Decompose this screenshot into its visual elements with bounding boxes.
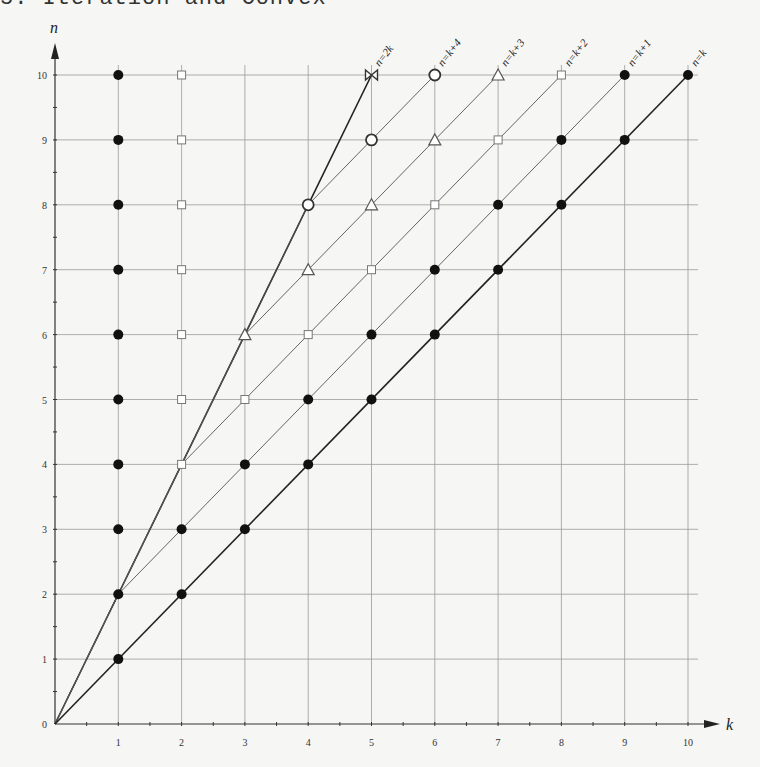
line-labels: n=2kn=k+4n=k+3n=k+2n=k+1n=k (372, 36, 710, 68)
x-tick-label: 9 (622, 737, 627, 748)
y-tick-label: 4 (42, 459, 47, 470)
y-tick-label: 10 (37, 70, 47, 81)
filled-dot-marker (430, 265, 440, 275)
open-square-marker (178, 201, 186, 209)
filled-dot-marker (493, 200, 503, 210)
filled-dot-marker (113, 265, 123, 275)
filled-dot-marker (113, 135, 123, 145)
filled-dot-marker (303, 459, 313, 469)
filled-dot-marker (493, 265, 503, 275)
open-square-marker (178, 331, 186, 339)
x-tick-label: 3 (242, 737, 247, 748)
line-label: n=2k (372, 42, 396, 69)
open-square-marker (178, 266, 186, 274)
open-square-marker (178, 396, 186, 404)
filled-dot-marker (113, 70, 123, 80)
open-circle-marker (303, 199, 314, 210)
filled-dot-marker (113, 589, 123, 599)
x-axis-arrow-icon (704, 720, 720, 728)
y-axis-label: n (50, 19, 58, 36)
x-tick-label: 1 (116, 737, 121, 748)
x-tick-label: 4 (306, 737, 311, 748)
filled-dot-marker (367, 395, 377, 405)
y-tick-label: 6 (42, 330, 47, 341)
y-tick-label: 5 (42, 395, 47, 406)
filled-dot-marker (620, 135, 630, 145)
line-label: n=k+3 (498, 36, 527, 68)
open-circle-marker (429, 70, 440, 81)
filled-dot-marker (303, 395, 313, 405)
lattice-chart: 12345678910012345678910kn n=2kn=k+4n=k+3… (0, 0, 760, 767)
filled-dot-marker (113, 395, 123, 405)
open-square-marker (557, 71, 565, 79)
x-tick-label: 5 (369, 737, 374, 748)
filled-dot-marker (430, 330, 440, 340)
open-square-marker (368, 266, 376, 274)
filled-dot-marker (240, 524, 250, 534)
open-square-marker (178, 71, 186, 79)
y-tick-label: 8 (42, 200, 47, 211)
open-square-marker (178, 136, 186, 144)
filled-dot-marker (556, 200, 566, 210)
y-tick-label: 0 (42, 719, 47, 730)
filled-dot-marker (113, 330, 123, 340)
line-label: n=k (688, 46, 709, 68)
line-label: n=k+2 (562, 36, 591, 68)
x-tick-label: 7 (496, 737, 501, 748)
open-square-marker (431, 201, 439, 209)
open-square-marker (304, 331, 312, 339)
y-tick-label: 7 (42, 265, 47, 276)
filled-dot-marker (683, 70, 693, 80)
y-tick-label: 1 (42, 654, 47, 665)
open-triangle-marker (492, 69, 504, 80)
filled-dot-marker (113, 654, 123, 664)
line-label: n=k+4 (435, 36, 464, 68)
x-tick-label: 10 (683, 737, 693, 748)
axes: 12345678910012345678910kn (37, 19, 734, 748)
filled-dot-marker (113, 200, 123, 210)
filled-dot-marker (177, 589, 187, 599)
filled-dot-marker (367, 330, 377, 340)
y-tick-label: 9 (42, 135, 47, 146)
open-square-marker (494, 136, 502, 144)
line-label: n=k+1 (625, 37, 653, 69)
x-tick-label: 8 (559, 737, 564, 748)
filled-dot-marker (113, 524, 123, 534)
x-tick-label: 2 (179, 737, 184, 748)
open-circle-marker (366, 134, 377, 145)
filled-dot-marker (177, 524, 187, 534)
y-axis-arrow-icon (51, 43, 59, 59)
filled-dot-marker (240, 459, 250, 469)
filled-dot-marker (556, 135, 566, 145)
open-square-marker (241, 396, 249, 404)
filled-dot-marker (620, 70, 630, 80)
x-axis-label: k (726, 716, 734, 733)
filled-dot-marker (113, 459, 123, 469)
y-tick-label: 2 (42, 589, 47, 600)
y-tick-label: 3 (42, 524, 47, 535)
x-tick-label: 6 (432, 737, 437, 748)
open-square-marker (178, 460, 186, 468)
